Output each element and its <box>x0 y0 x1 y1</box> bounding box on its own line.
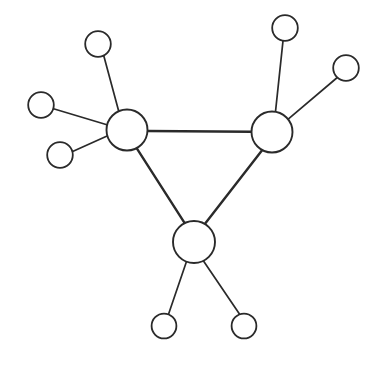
edge-hubleft-hubright[interactable] <box>148 131 252 132</box>
node-leaf-bottom-left[interactable] <box>152 314 177 339</box>
node-hub-bottom[interactable] <box>173 221 215 263</box>
node-leaf-left-lower[interactable] <box>47 142 73 168</box>
node-leaf-right-upper[interactable] <box>333 55 359 81</box>
node-hub-left[interactable] <box>107 110 148 151</box>
node-leaf-top-right[interactable] <box>272 15 298 41</box>
node-leaf-top-left[interactable] <box>85 31 111 57</box>
graph-svg <box>0 0 386 366</box>
node-hub-right[interactable] <box>252 112 293 153</box>
node-leaf-bottom-right[interactable] <box>232 314 257 339</box>
network-diagram-canvas <box>0 0 386 366</box>
node-leaf-left-upper[interactable] <box>28 92 54 118</box>
diagram-background <box>0 0 386 366</box>
